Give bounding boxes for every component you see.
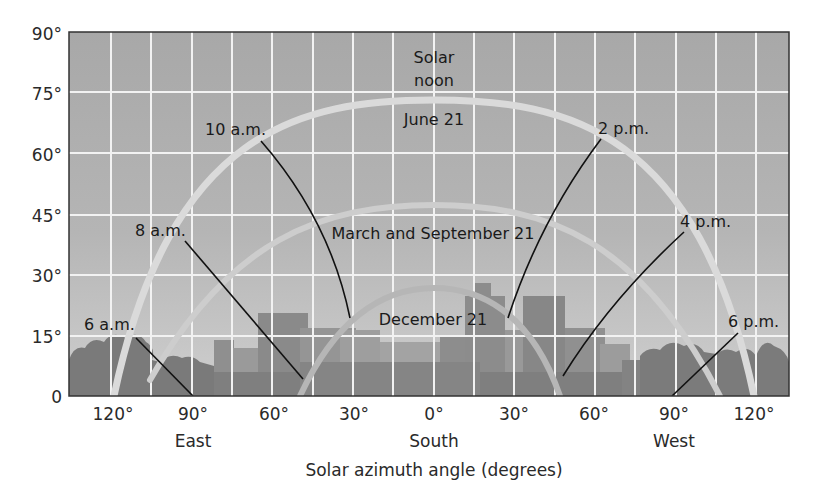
x-tick-90-east: 90° (178, 404, 208, 424)
x-tick-120-west: 120° (734, 404, 775, 424)
x-tick-30-east: 30° (339, 404, 369, 424)
y-axis: 90° 75° 60° 45° 30° 15° 0 (32, 24, 62, 407)
x-tick-90-west: 90° (659, 404, 689, 424)
y-tick-15: 15° (32, 327, 62, 347)
label-march-september-21: March and September 21 (332, 224, 535, 243)
y-tick-90: 90° (32, 24, 62, 44)
x-tick-30-west: 30° (499, 404, 529, 424)
y-tick-75: 75° (32, 84, 62, 104)
label-10am: 10 a.m. (205, 120, 266, 139)
x-tick-60-east: 60° (259, 404, 289, 424)
x-axis: 120° 90° 60° 30° 0° 30° 60° 90° 120° Eas… (93, 404, 775, 480)
direction-east: East (175, 431, 212, 451)
direction-west: West (653, 431, 695, 451)
label-june-21: June 21 (403, 110, 464, 129)
sun-path-chart: 90° 75° 60° 45° 30° 15° 0 120° 90° 60° 3… (0, 0, 823, 503)
label-noon: noon (414, 71, 454, 90)
y-tick-45: 45° (32, 206, 62, 226)
y-tick-60: 60° (32, 145, 62, 165)
label-2pm: 2 p.m. (598, 119, 649, 138)
x-tick-120-east: 120° (93, 404, 134, 424)
label-december-21: December 21 (379, 310, 487, 329)
direction-south: South (409, 431, 458, 451)
x-tick-0: 0° (424, 404, 443, 424)
x-tick-60-west: 60° (579, 404, 609, 424)
label-6am: 6 a.m. (84, 315, 135, 334)
x-axis-title: Solar azimuth angle (degrees) (305, 460, 562, 480)
label-4pm: 4 p.m. (680, 212, 731, 231)
label-8am: 8 a.m. (135, 221, 186, 240)
label-solar: Solar (414, 48, 455, 67)
label-6pm: 6 p.m. (728, 312, 779, 331)
y-tick-0: 0 (51, 387, 62, 407)
y-tick-30: 30° (32, 266, 62, 286)
